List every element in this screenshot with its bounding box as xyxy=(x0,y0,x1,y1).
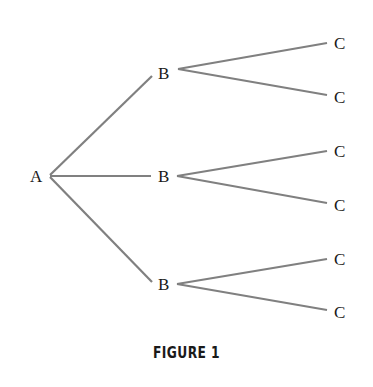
edge-b2-c4 xyxy=(177,176,327,203)
edge-b3-c5 xyxy=(177,259,327,284)
edge-b3-c6 xyxy=(177,284,327,310)
edge-a-b1 xyxy=(50,76,152,175)
node-a: A xyxy=(30,167,43,186)
node-c2: C xyxy=(334,88,345,107)
node-b2: B xyxy=(158,167,169,186)
node-c4: C xyxy=(334,196,345,215)
node-c1: C xyxy=(334,34,345,53)
edge-b1-c1 xyxy=(178,43,327,69)
node-c5: C xyxy=(334,250,345,269)
node-b1: B xyxy=(158,64,169,83)
node-c3: C xyxy=(334,142,345,161)
node-b3: B xyxy=(158,275,169,294)
tree-diagram: A B B B C C C C C C xyxy=(0,0,373,387)
edges xyxy=(50,43,327,310)
node-c6: C xyxy=(334,303,345,322)
edge-b2-c3 xyxy=(177,151,327,176)
figure-caption: FIGURE 1 xyxy=(34,344,340,362)
edge-a-b3 xyxy=(50,177,152,282)
edge-b1-c2 xyxy=(178,69,327,95)
